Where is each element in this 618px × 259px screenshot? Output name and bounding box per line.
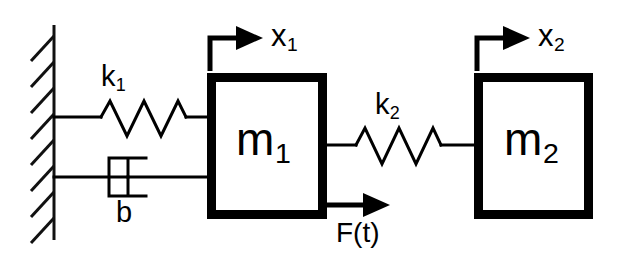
force-arrow-F-head (363, 193, 390, 217)
spring-k2-label-subscript: 2 (390, 103, 400, 123)
mass-m2-label: m2 (504, 116, 559, 162)
coordinate-arrow-x1-line (210, 38, 239, 71)
coordinate-arrow-x2 (477, 26, 530, 71)
wall-hatch-mark (31, 140, 54, 165)
force-F-label-text: F(t) (336, 217, 380, 248)
coordinate-arrow-x1 (210, 26, 263, 71)
spring-k1-coil (101, 101, 186, 136)
wall-hatch-mark (31, 114, 54, 139)
mass-m1-label-subscript: 1 (275, 137, 291, 169)
fixed-wall (31, 25, 54, 243)
spring-k1-label: k1 (101, 62, 126, 91)
wall-hatch-mark (31, 192, 54, 217)
force-F-label: F(t) (336, 219, 380, 247)
mechanical-system-diagram: k1 b k2 m1 m2 x1 x2 F(t) (0, 0, 618, 259)
spring-k1-label-base: k (101, 60, 116, 92)
spring-k1-label-subscript: 1 (116, 75, 126, 95)
mass-m1-label-base: m (236, 113, 274, 165)
spring-k2-coil (356, 128, 441, 164)
mass-m2-label-subscript: 2 (543, 137, 559, 169)
coordinate-x1-label-subscript: 1 (287, 34, 298, 55)
wall-hatch-mark (31, 62, 54, 87)
mass-m1-label: m1 (236, 116, 291, 162)
mass-m2-label-base: m (504, 113, 542, 165)
coordinate-x2-label-subscript: 2 (554, 34, 565, 55)
spring-k2-label-base: k (375, 88, 390, 120)
spring-k1 (54, 101, 211, 136)
force-arrow-F (327, 193, 390, 217)
coordinate-arrow-x2-head (503, 26, 530, 50)
damper-b-label-base: b (116, 196, 132, 228)
wall-hatching (31, 36, 54, 243)
spring-k2-label: k2 (375, 90, 400, 119)
wall-hatch-mark (31, 166, 54, 191)
coordinate-x2-label: x2 (538, 20, 565, 51)
coordinate-x2-label-base: x (538, 18, 554, 53)
spring-k2 (324, 128, 477, 164)
coordinate-arrow-x2-line (477, 38, 506, 71)
coordinate-x1-label-base: x (271, 18, 287, 53)
wall-hatch-mark (31, 88, 54, 113)
wall-hatch-mark (31, 218, 54, 243)
coordinate-x1-label: x1 (271, 20, 298, 51)
coordinate-arrow-x1-head (236, 26, 263, 50)
damper-b-label: b (116, 198, 132, 227)
damper-b (54, 158, 211, 196)
wall-hatch-mark (31, 36, 54, 61)
